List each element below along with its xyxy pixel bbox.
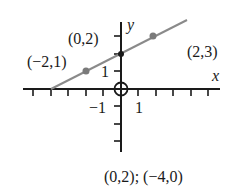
- tick-label-x-neg1: −1: [89, 99, 106, 116]
- label-point-2-3: (2,3): [187, 43, 218, 61]
- label-point-neg2-1: (−2,1): [27, 53, 67, 71]
- label-point-0-2: (0,2): [68, 30, 99, 48]
- graph: (0,2) (−2,1) (2,3) y x 1 −1 1 (0,2); (−4…: [0, 0, 240, 196]
- point-neg2-1: [83, 68, 90, 75]
- tick-label-y-1: 1: [101, 63, 109, 80]
- tick-label-x-1: 1: [135, 99, 143, 116]
- y-axis-label: y: [125, 16, 135, 34]
- x-axis-label: x: [211, 67, 219, 84]
- point-2-3: [150, 33, 157, 40]
- intercepts-caption: (0,2); (−4,0): [104, 168, 183, 186]
- point-0-2: [118, 51, 124, 57]
